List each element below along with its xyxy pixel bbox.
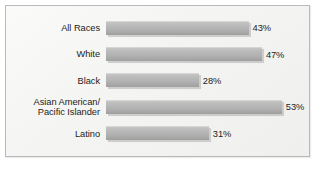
bar-shape — [106, 100, 282, 114]
bar-category-label: Asian American/ Pacific Islander — [6, 97, 106, 118]
bar-category-label: All Races — [6, 23, 106, 33]
bar-row: Asian American/ Pacific Islander 53% — [6, 96, 305, 118]
bar-shape — [106, 126, 209, 140]
bar-shape — [106, 73, 199, 87]
bar-value-label: 53% — [286, 102, 304, 112]
bar-track: 53% — [106, 100, 305, 115]
bar-row: Latino 31% — [6, 123, 305, 145]
bar-row: Black 28% — [6, 70, 305, 92]
bar-value-label: 43% — [253, 23, 271, 33]
bar-category-label: Black — [6, 76, 106, 86]
bar-track: 43% — [106, 21, 305, 36]
bar-track: 47% — [106, 47, 305, 62]
chart-plot-area: All Races 43% White 47% Black 28% Asian … — [6, 6, 309, 156]
bar-category-label: Latino — [6, 129, 106, 139]
bar-chart-figure: All Races 43% White 47% Black 28% Asian … — [5, 5, 310, 157]
bar-row: All Races 43% — [6, 17, 305, 39]
bar-category-label: White — [6, 49, 106, 59]
bar-shape — [106, 21, 249, 35]
bar-value-label: 47% — [266, 50, 284, 60]
bar-value-label: 31% — [213, 129, 231, 139]
bar-row: White 47% — [6, 44, 305, 66]
bar-value-label: 28% — [203, 76, 221, 86]
bar-track: 31% — [106, 126, 305, 141]
bar-shape — [106, 47, 262, 61]
bar-track: 28% — [106, 73, 305, 88]
